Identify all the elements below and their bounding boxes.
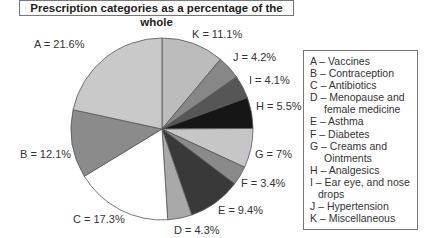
legend-item-i-cont: drops (310, 188, 417, 200)
slice-label-k: K = 11.1% (192, 28, 242, 40)
legend-item-b: B – Contraception (310, 67, 417, 79)
legend-item-c: C – Antibiotics (310, 79, 417, 91)
legend-item-h: H – Analgesics (310, 164, 417, 176)
legend-item-d-cont: female medicine (310, 103, 417, 115)
slice-label-c: C = 17.3% (73, 213, 125, 225)
slice-label-b: B = 12.1% (20, 148, 71, 160)
legend-item-d: D – Menopause and (310, 91, 417, 103)
legend-item-g: G – Creams and (310, 140, 417, 152)
legend-item-a: A – Vaccines (310, 55, 417, 67)
slice-label-g: G = 7% (255, 148, 292, 160)
legend-item-f: F – Diabetes (310, 128, 417, 140)
slice-label-e: E = 9.4% (218, 204, 263, 216)
slice-label-a: A = 21.6% (34, 38, 84, 50)
legend-item-j: J – Hypertension (310, 200, 417, 212)
slice-label-d: D = 4.3% (174, 224, 220, 236)
slice-label-i: I = 4.1% (249, 74, 290, 86)
legend-item-e: E – Asthma (310, 115, 417, 127)
slice-label-j: J = 4.2% (233, 51, 276, 63)
legend-item-i: I – Ear eye, and nose (310, 176, 417, 188)
slice-label-f: F = 3.4% (241, 177, 285, 189)
legend-item-g-cont: Ointments (310, 152, 417, 164)
slice-label-h: H = 5.5% (256, 100, 302, 112)
legend-item-k: K – Miscellaneous (310, 212, 417, 224)
legend: A – Vaccines B – Contraception C – Antib… (303, 50, 418, 230)
